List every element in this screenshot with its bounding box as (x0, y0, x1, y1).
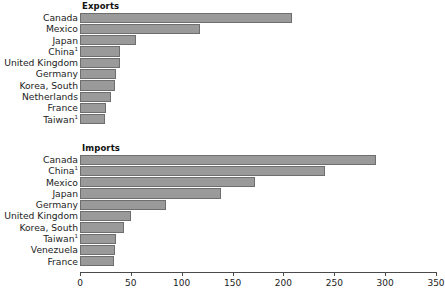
bar-category-label: Venezuela (0, 244, 78, 255)
bar-category-label: France (0, 256, 78, 267)
bar-category-label: Germany (0, 68, 78, 79)
bar-track (80, 24, 438, 34)
x-axis-tick (233, 272, 234, 276)
bar-category-label: United Kingdom (0, 210, 78, 221)
bar-row: Netherlands (0, 91, 440, 102)
x-axis-tick-label: 200 (275, 278, 292, 289)
bar-track (80, 155, 438, 165)
x-axis-tick (283, 272, 284, 276)
bar-track (80, 234, 438, 244)
bar-track (80, 92, 438, 102)
bar-track (80, 188, 438, 198)
bar-track (80, 245, 438, 255)
bar (80, 46, 120, 56)
footnote-marker: 1 (75, 165, 79, 171)
bar (80, 24, 200, 34)
bar-category-label: Japan (0, 35, 78, 46)
bar-row: Korea, South (0, 222, 440, 233)
bar-category-label: United Kingdom (0, 57, 78, 68)
bar-category-label: Korea, South (0, 222, 78, 233)
footnote-marker: 1 (75, 233, 79, 239)
panel-title-imports: Imports (82, 143, 120, 153)
bar (80, 58, 120, 68)
bar-row: Mexico (0, 177, 440, 188)
bar-row: Germany (0, 68, 440, 79)
x-axis-tick (436, 272, 437, 276)
bar-row: Taiwan1 (0, 233, 440, 244)
bar-row: Korea, South (0, 80, 440, 91)
bar (80, 103, 106, 113)
bar-track (80, 166, 438, 176)
bar (80, 35, 136, 45)
bar-row: Taiwan1 (0, 114, 440, 125)
x-axis-tick-label: 100 (173, 278, 190, 289)
x-axis-tick (334, 272, 335, 276)
bar-category-label: France (0, 102, 78, 113)
footnote-marker: 1 (75, 114, 79, 120)
x-axis-tick (182, 272, 183, 276)
bar-category-label: Japan (0, 188, 78, 199)
x-axis-tick-label: 150 (224, 278, 241, 289)
bar (80, 245, 115, 255)
bar-category-label: Mexico (0, 23, 78, 34)
bar (80, 222, 124, 232)
bar-track (80, 58, 438, 68)
bar-category-label: Netherlands (0, 91, 78, 102)
x-axis: 050100150200250300350 (80, 272, 436, 296)
bar-track (80, 46, 438, 56)
x-axis-tick (131, 272, 132, 276)
bar-category-label: Korea, South (0, 80, 78, 91)
bar (80, 200, 166, 210)
bar (80, 166, 325, 176)
bar-category-label: China1 (0, 165, 78, 176)
bar (80, 69, 116, 79)
bar-track (80, 211, 438, 221)
bar-category-label: China1 (0, 46, 78, 57)
bar-row: United Kingdom (0, 210, 440, 221)
bar (80, 13, 292, 23)
bar-category-label: Taiwan1 (0, 114, 78, 125)
bar-row: Germany (0, 199, 440, 210)
bar-row: Canada (0, 154, 440, 165)
bar-track (80, 69, 438, 79)
bar (80, 211, 131, 221)
x-axis-tick (385, 272, 386, 276)
bar-track (80, 200, 438, 210)
bar-track (80, 222, 438, 232)
panel-exports: Exports CanadaMexicoJapanChina1United Ki… (0, 0, 440, 140)
bar-row: China1 (0, 165, 440, 176)
bar (80, 114, 105, 124)
x-axis-tick-label: 0 (77, 278, 83, 289)
bar-category-label: Canada (0, 154, 78, 165)
x-axis-tick-label: 350 (427, 278, 444, 289)
bar-row: China1 (0, 46, 440, 57)
bar (80, 80, 115, 90)
bar-row: France (0, 256, 440, 267)
bar-track (80, 80, 438, 90)
bar-track (80, 103, 438, 113)
bar-category-label: Taiwan1 (0, 233, 78, 244)
bar-rows-exports: CanadaMexicoJapanChina1United KingdomGer… (0, 12, 440, 125)
bar-row: Venezuela (0, 244, 440, 255)
x-axis-tick-label: 250 (326, 278, 343, 289)
bar-rows-imports: CanadaChina1MexicoJapanGermanyUnited Kin… (0, 154, 440, 267)
bar (80, 92, 111, 102)
bar-category-label: Canada (0, 12, 78, 23)
bar-category-label: Germany (0, 199, 78, 210)
bar-track (80, 114, 438, 124)
x-axis-tick-label: 300 (377, 278, 394, 289)
bar-row: France (0, 102, 440, 113)
x-axis-line (80, 272, 436, 273)
bar-category-label: Mexico (0, 177, 78, 188)
footnote-marker: 1 (75, 46, 79, 52)
bar-track (80, 256, 438, 266)
bar-row: Canada (0, 12, 440, 23)
bar-row: Japan (0, 35, 440, 46)
x-axis-tick-label: 50 (125, 278, 136, 289)
bar (80, 188, 221, 198)
panel-title-exports: Exports (82, 1, 119, 11)
bar-track (80, 35, 438, 45)
bar-track (80, 13, 438, 23)
bar-track (80, 177, 438, 187)
